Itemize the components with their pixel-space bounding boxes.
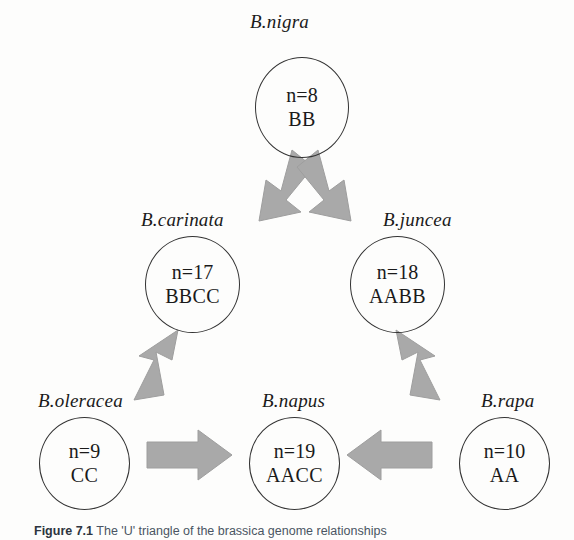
arrow-rapa-to-juncea: [396, 330, 440, 400]
node-chromosome-count-b-nigra: n=8: [286, 84, 318, 108]
node-genome-b-juncea: AABB: [369, 285, 426, 309]
node-circle-b-carinata: n=17 BBCC: [145, 236, 240, 333]
figure-caption: Figure 7.1 The 'U' triangle of the brass…: [34, 524, 554, 538]
figure-caption-number: Figure 7.1: [34, 524, 93, 538]
node-genome-b-nigra: BB: [288, 108, 315, 132]
node-label-b-juncea: B.juncea: [383, 209, 452, 231]
node-label-b-nigra: B.nigra: [250, 11, 309, 33]
figure-canvas: B.nigra n=8 BB B.carinata n=17 BBCC B.ju…: [0, 0, 574, 540]
node-circle-b-oleracea: n=9 CC: [39, 417, 130, 510]
arrow-oleracea-to-napus: [147, 430, 232, 480]
arrow-oleracea-to-carinata: [134, 330, 178, 400]
node-chromosome-count-b-juncea: n=18: [377, 261, 419, 285]
node-circle-b-nigra: n=8 BB: [255, 57, 349, 158]
arrow-rapa-to-napus: [347, 430, 432, 480]
node-chromosome-count-b-oleracea: n=9: [69, 440, 101, 464]
node-chromosome-count-b-napus: n=19: [274, 440, 316, 464]
arrow-nigra-to-juncea: [297, 150, 351, 221]
node-circle-b-juncea: n=18 AABB: [350, 236, 445, 333]
node-label-b-rapa: B.rapa: [481, 390, 534, 412]
node-label-b-carinata: B.carinata: [141, 209, 224, 231]
node-chromosome-count-b-rapa: n=10: [484, 440, 526, 464]
node-label-b-oleracea: B.oleracea: [38, 390, 123, 412]
node-genome-b-rapa: AA: [490, 464, 520, 488]
node-chromosome-count-b-carinata: n=17: [172, 261, 214, 285]
node-genome-b-carinata: BBCC: [165, 285, 220, 309]
node-genome-b-napus: AACC: [266, 464, 323, 488]
figure-caption-text: The 'U' triangle of the brassica genome …: [96, 524, 386, 538]
node-genome-b-oleracea: CC: [71, 464, 98, 488]
node-circle-b-napus: n=19 AACC: [249, 417, 340, 510]
node-label-b-napus: B.napus: [262, 390, 325, 412]
node-circle-b-rapa: n=10 AA: [459, 417, 550, 510]
